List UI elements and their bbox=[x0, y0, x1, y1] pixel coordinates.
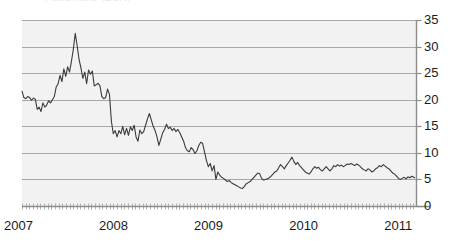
xtick-label-2010: 2010 bbox=[289, 219, 318, 233]
ytick-label-35: 35 bbox=[424, 13, 438, 26]
xtick-label-2008: 2008 bbox=[99, 219, 128, 233]
chart-page: Aktienkurs (EUR) 05101520253035 20072008… bbox=[0, 0, 451, 244]
gridlines-group bbox=[22, 21, 417, 180]
xtick-label-2011: 2011 bbox=[384, 219, 412, 233]
ytick-label-25: 25 bbox=[424, 66, 438, 79]
ytick-label-10: 10 bbox=[424, 146, 438, 159]
line-chart-svg bbox=[0, 0, 451, 244]
ytick-label-30: 30 bbox=[424, 40, 438, 53]
xtick-label-2007: 2007 bbox=[4, 219, 33, 233]
ytick-label-20: 20 bbox=[424, 93, 438, 106]
ytick-label-15: 15 bbox=[424, 119, 438, 132]
ytick-label-0: 0 bbox=[424, 199, 431, 212]
series-line-price bbox=[22, 33, 415, 188]
ytick-label-5: 5 bbox=[424, 172, 431, 185]
major-yticks-group bbox=[417, 21, 422, 207]
xtick-label-2009: 2009 bbox=[194, 219, 223, 233]
